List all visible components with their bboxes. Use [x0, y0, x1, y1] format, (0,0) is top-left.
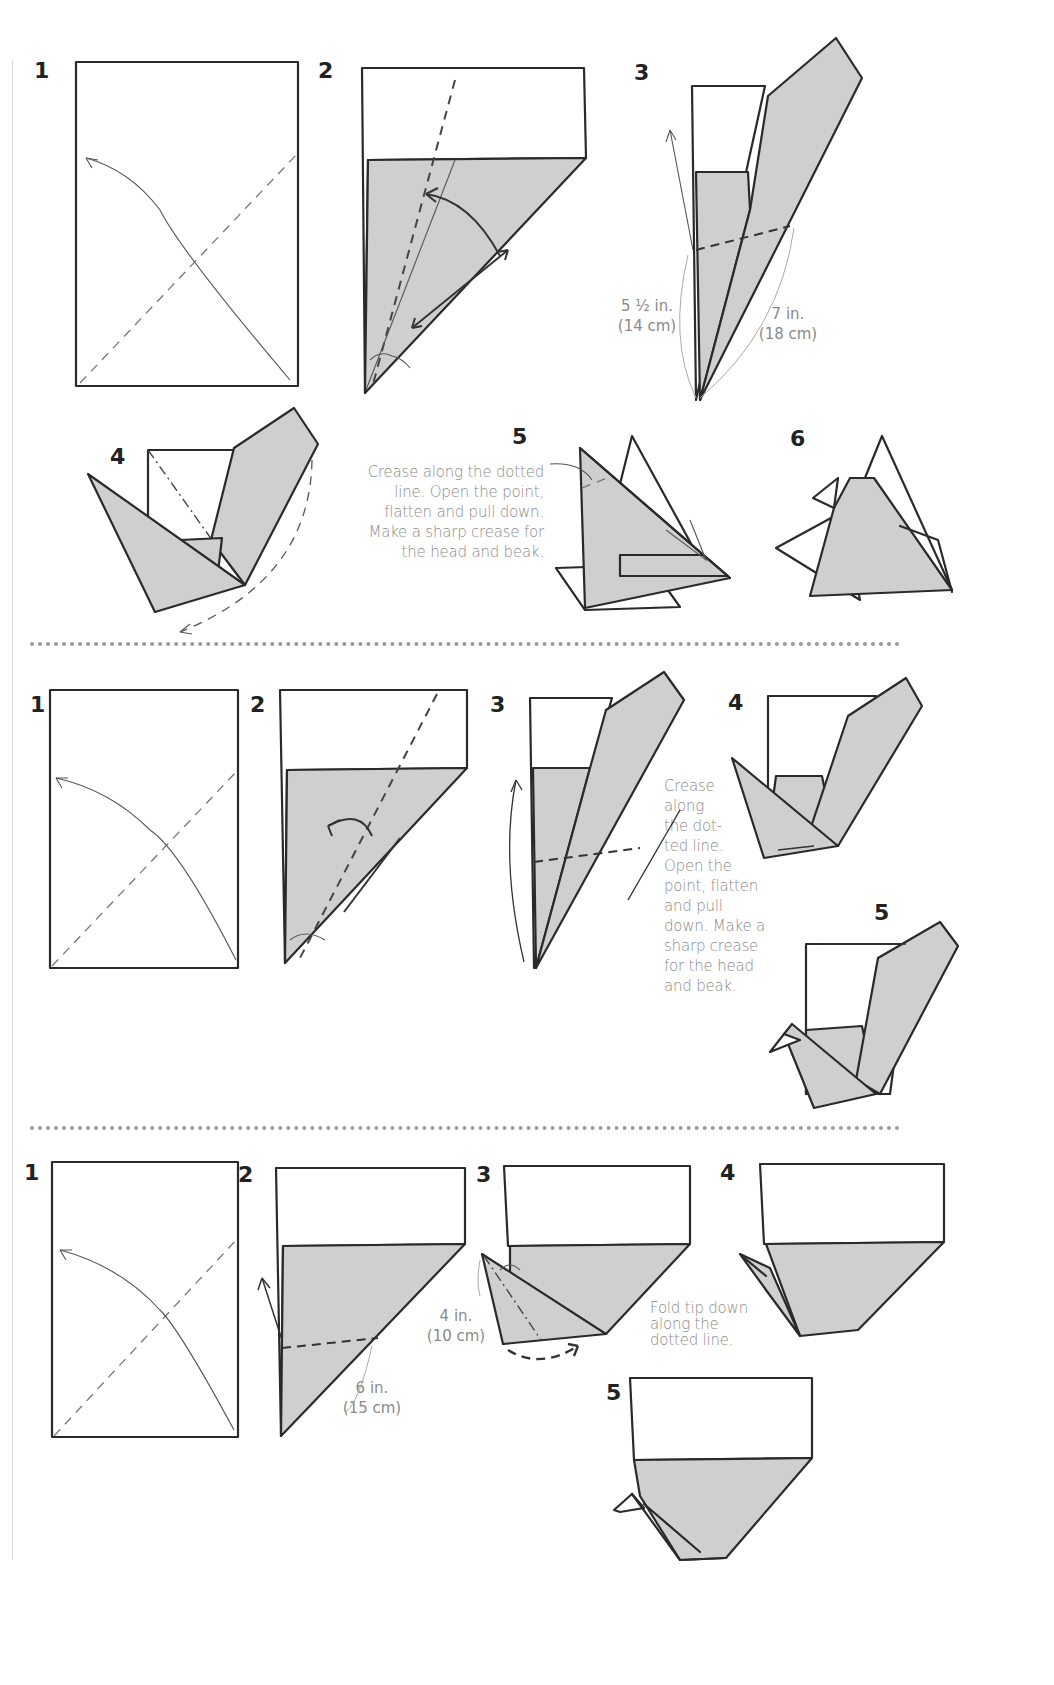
s3-step2-illustration [258, 1168, 465, 1436]
origami-artwork [0, 0, 1054, 1685]
s2-step1-illustration [50, 690, 238, 968]
s1-step5-illustration [550, 436, 730, 610]
s1-step3-illustration [666, 38, 862, 400]
s1-step6-illustration [776, 436, 952, 600]
s3-step4-illustration [740, 1164, 944, 1336]
s2-step4-illustration [732, 678, 922, 858]
s3-step5-illustration [614, 1378, 812, 1560]
s2-step5-illustration [770, 922, 958, 1108]
s3-step3-illustration [478, 1166, 690, 1359]
s1-step1-square-illustration [76, 62, 298, 386]
s3-step1-illustration [52, 1162, 238, 1437]
s2-step2-illustration [280, 690, 467, 963]
s1-step2-illustration [362, 68, 586, 393]
s2-step3-illustration [510, 672, 684, 968]
s1-step4-illustration [88, 408, 318, 634]
